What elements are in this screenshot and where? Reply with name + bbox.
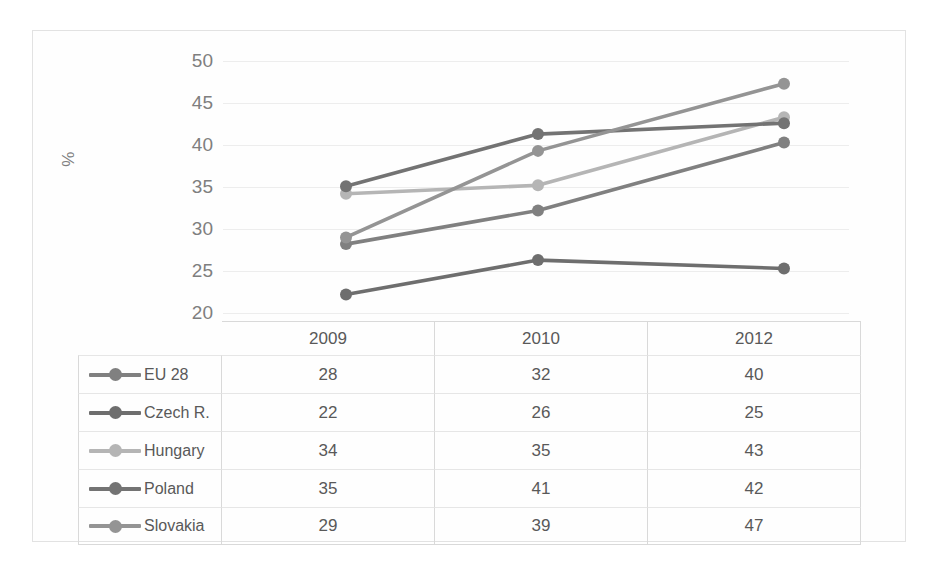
y-tick-30: 30 — [192, 218, 213, 240]
cell-slovakia-2009: 29 — [222, 507, 435, 545]
legend-item-poland[interactable]: Poland — [78, 469, 222, 507]
y-tick-40: 40 — [192, 134, 213, 156]
series-poland — [340, 117, 790, 192]
cell-poland-2012: 42 — [648, 469, 861, 507]
cell-czech-2012: 25 — [648, 393, 861, 431]
legend-marker-icon — [89, 444, 141, 458]
legend-marker-icon — [89, 368, 141, 382]
y-tick-35: 35 — [192, 176, 213, 198]
chart-frame: % 50 45 40 35 30 25 20 2009 2010 2012 — [32, 30, 906, 542]
legend-label: EU 28 — [144, 366, 188, 384]
legend-item-slovakia[interactable]: Slovakia — [78, 507, 222, 545]
header-2012: 2012 — [648, 321, 861, 355]
y-axis-ticks: 50 45 40 35 30 25 20 — [159, 31, 221, 321]
y-tick-45: 45 — [192, 92, 213, 114]
cell-eu28-2010: 32 — [435, 355, 648, 393]
table-row: EU 28 28 32 40 — [78, 355, 861, 393]
table-row: Slovakia 29 39 47 — [78, 507, 861, 545]
cell-poland-2010: 41 — [435, 469, 648, 507]
cell-czech-2009: 22 — [222, 393, 435, 431]
legend-label: Hungary — [144, 442, 204, 460]
legend-item-czech[interactable]: Czech R. — [78, 393, 222, 431]
table-row: Czech R. 22 26 25 — [78, 393, 861, 431]
y-tick-25: 25 — [192, 260, 213, 282]
cell-czech-2010: 26 — [435, 393, 648, 431]
y-tick-50: 50 — [192, 50, 213, 72]
legend-label: Slovakia — [144, 517, 204, 535]
cell-hungary-2009: 34 — [222, 431, 435, 469]
series-czech-r — [340, 254, 790, 300]
y-axis-label: % — [59, 151, 79, 167]
header-2009: 2009 — [222, 321, 435, 355]
cell-eu28-2009: 28 — [222, 355, 435, 393]
legend-label: Poland — [144, 480, 194, 498]
legend-label: Czech R. — [144, 404, 210, 422]
legend-item-eu28[interactable]: EU 28 — [78, 355, 222, 393]
plot-area: % 50 45 40 35 30 25 20 — [33, 31, 907, 321]
cell-hungary-2010: 35 — [435, 431, 648, 469]
series-plot — [223, 31, 849, 321]
data-table: 2009 2010 2012 EU 28 28 32 40 Czech R. 2 — [78, 321, 861, 545]
header-legend-spacer — [78, 321, 222, 355]
cell-slovakia-2010: 39 — [435, 507, 648, 545]
legend-marker-icon — [89, 482, 141, 496]
legend-item-hungary[interactable]: Hungary — [78, 431, 222, 469]
legend-marker-icon — [89, 406, 141, 420]
cell-poland-2009: 35 — [222, 469, 435, 507]
cell-eu28-2012: 40 — [648, 355, 861, 393]
legend-marker-icon — [89, 519, 141, 533]
header-2010: 2010 — [435, 321, 648, 355]
cell-hungary-2012: 43 — [648, 431, 861, 469]
table-row: Hungary 34 35 43 — [78, 431, 861, 469]
series-eu-28 — [340, 136, 790, 250]
table-header-row: 2009 2010 2012 — [78, 321, 861, 355]
cell-slovakia-2012: 47 — [648, 507, 861, 545]
table-row: Poland 35 41 42 — [78, 469, 861, 507]
